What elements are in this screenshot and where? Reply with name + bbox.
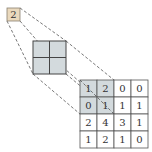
input-cell-value: 0 bbox=[85, 100, 91, 111]
input-cell-value: 0 bbox=[136, 134, 142, 145]
input-cell-value: 3 bbox=[119, 117, 125, 128]
kernel-grid bbox=[33, 41, 66, 74]
output-cell: 2 bbox=[7, 8, 20, 21]
input-cell-value: 4 bbox=[102, 117, 108, 128]
input-cell-value: 1 bbox=[136, 117, 142, 128]
output-value: 2 bbox=[10, 9, 16, 20]
input-cell-value: 2 bbox=[102, 83, 108, 94]
input-cell-value: 1 bbox=[119, 134, 125, 145]
input-cell-value: 1 bbox=[85, 134, 91, 145]
input-cell-value: 0 bbox=[136, 83, 142, 94]
input-grid: 1200011124311210 bbox=[80, 80, 148, 148]
input-cell-value: 1 bbox=[136, 100, 142, 111]
pooling-diagram: 2 1200011124311210 bbox=[0, 0, 152, 152]
input-cell-value: 2 bbox=[85, 117, 91, 128]
input-cell-value: 2 bbox=[102, 134, 108, 145]
input-cell-value: 1 bbox=[119, 100, 125, 111]
input-cell-value: 0 bbox=[119, 83, 125, 94]
